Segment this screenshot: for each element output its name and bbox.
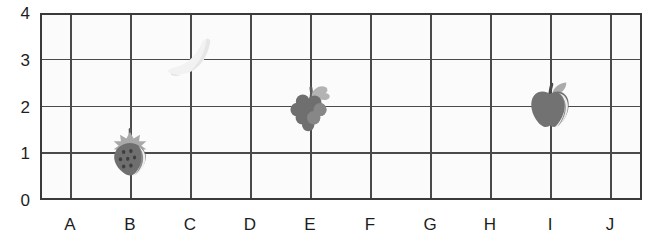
y-tick-label: 3 — [6, 51, 30, 68]
gridline-horizontal — [42, 59, 640, 61]
y-tick-label: 1 — [6, 145, 30, 162]
x-tick-label: E — [295, 216, 325, 233]
y-tick-label: 0 — [6, 192, 30, 209]
x-tick-label: F — [355, 216, 385, 233]
plot-area — [40, 13, 642, 200]
x-tick-label: B — [115, 216, 145, 233]
x-tick-label: A — [55, 216, 85, 233]
gridline-horizontal — [42, 106, 640, 108]
y-tick-label: 4 — [6, 5, 30, 22]
x-tick-label: H — [475, 216, 505, 233]
x-tick-label: J — [595, 216, 625, 233]
x-tick-label: G — [415, 216, 445, 233]
x-tick-label: I — [535, 216, 565, 233]
x-tick-label: C — [175, 216, 205, 233]
x-tick-label: D — [235, 216, 265, 233]
fruit-coordinate-grid-chart: 4 3 2 1 0 A B C D E F G H I J — [0, 0, 652, 243]
gridline-horizontal — [42, 152, 640, 154]
y-tick-label: 2 — [6, 98, 30, 115]
